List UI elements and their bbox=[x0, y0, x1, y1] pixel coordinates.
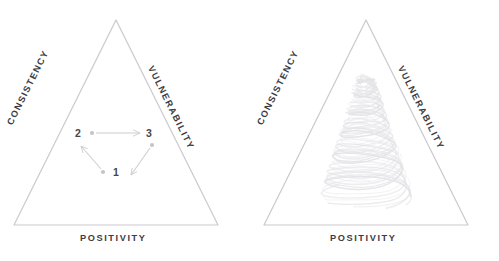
node-label-2: 2 bbox=[75, 128, 81, 139]
panel-triangle-spiral: CONSISTENCY VULNERABILITY POSITIVITY bbox=[250, 0, 499, 261]
node-dot-3 bbox=[150, 143, 154, 147]
arrow-1-to-2 bbox=[81, 146, 101, 169]
node-dot-1 bbox=[101, 170, 105, 174]
left-triangle-graphic bbox=[0, 0, 249, 261]
edge-label-positivity: POSITIVITY bbox=[330, 234, 397, 243]
right-triangle-graphic bbox=[250, 0, 499, 261]
spiral-scribble bbox=[321, 74, 411, 208]
node-label-1: 1 bbox=[113, 167, 119, 178]
edge-label-positivity: POSITIVITY bbox=[80, 234, 147, 243]
node-label-3: 3 bbox=[146, 128, 152, 139]
arrow-3-to-1 bbox=[131, 148, 150, 175]
node-dot-2 bbox=[90, 131, 94, 135]
panel-triangle-cycle: CONSISTENCY VULNERABILITY POSITIVITY 2 3… bbox=[0, 0, 249, 261]
figure-canvas: CONSISTENCY VULNERABILITY POSITIVITY 2 3… bbox=[0, 0, 499, 261]
